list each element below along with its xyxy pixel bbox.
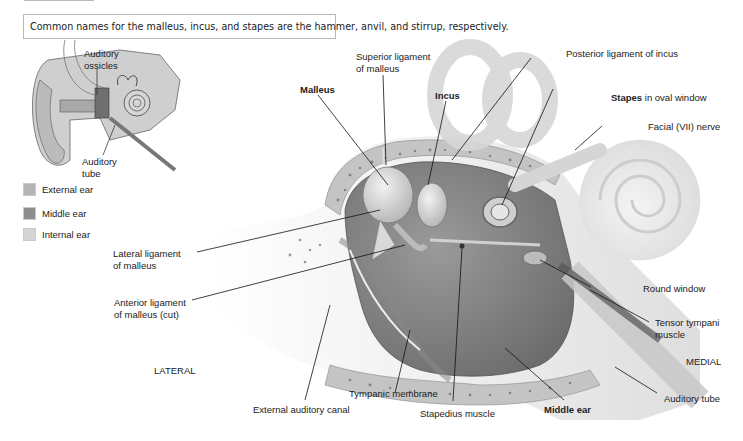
label-line: Tensor tympani	[655, 317, 719, 329]
label-superior-ligament: Superior ligament of malleus	[356, 51, 430, 75]
label-auditory-ossicles: Auditory ossicles	[84, 48, 119, 72]
label-line: of malleus (cut)	[114, 309, 186, 321]
label-line: ossicles	[84, 60, 119, 72]
label-line: of malleus	[113, 260, 181, 272]
legend-swatch	[23, 228, 36, 241]
label-line: muscle	[655, 329, 719, 341]
label-line: tube	[82, 168, 117, 180]
label-stapedius-muscle: Stapedius muscle	[420, 408, 495, 419]
label-stapes: Stapes in oval window	[611, 92, 707, 103]
label-line: Lateral ligament	[113, 248, 181, 260]
label-stapes-rest: in oval window	[642, 92, 706, 103]
label-stapes-bold: Stapes	[611, 92, 642, 103]
label-auditory-tube-inset: Auditory tube	[82, 156, 117, 180]
label-tensor-tympani: Tensor tympani muscle	[655, 317, 719, 341]
label-anterior-ligament: Anterior ligament of malleus (cut)	[114, 297, 186, 321]
label-external-auditory-canal: External auditory canal	[253, 404, 350, 415]
legend-label: External ear	[42, 184, 93, 195]
legend-item-external-ear: External ear	[23, 183, 93, 196]
label-facial-nerve: Facial (VII) nerve	[648, 121, 720, 132]
label-round-window: Round window	[643, 283, 705, 294]
label-line: of malleus	[356, 63, 430, 75]
label-line: Anterior ligament	[114, 297, 186, 309]
label-posterior-ligament: Posterior ligament of incus	[566, 48, 678, 59]
legend-label: Internal ear	[42, 229, 90, 240]
legend-label: Middle ear	[42, 208, 86, 219]
legend-swatch	[23, 183, 36, 196]
label-middle-ear: Middle ear	[544, 404, 591, 415]
label-malleus: Malleus	[300, 84, 335, 95]
label-lateral: LATERAL	[154, 365, 196, 376]
label-tympanic-membrane: Tympanic membrane	[349, 388, 438, 399]
label-incus: Incus	[435, 90, 460, 101]
label-lateral-ligament: Lateral ligament of malleus	[113, 248, 181, 272]
label-line: Superior ligament	[356, 51, 430, 63]
legend-item-internal-ear: Internal ear	[23, 228, 90, 241]
label-line: Auditory	[82, 156, 117, 168]
legend-swatch	[23, 207, 36, 220]
legend-item-middle-ear: Middle ear	[23, 207, 86, 220]
label-line: Auditory	[84, 48, 119, 60]
label-auditory-tube: Auditory tube	[664, 393, 720, 404]
label-medial: MEDIAL	[686, 356, 721, 367]
